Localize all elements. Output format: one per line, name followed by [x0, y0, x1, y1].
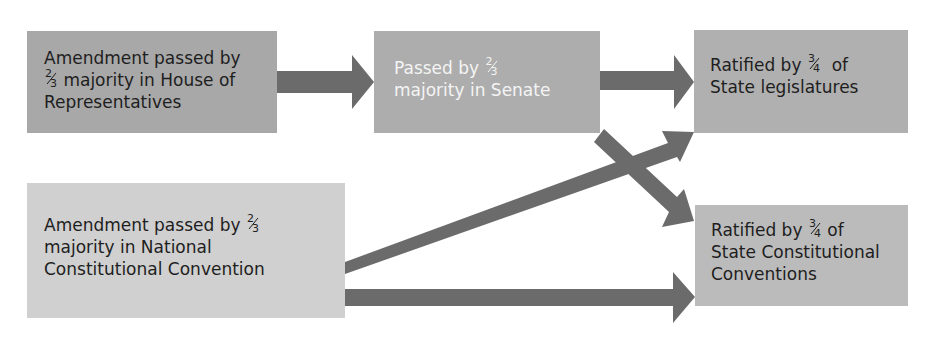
node-senate-line2: majority in Senate: [394, 79, 550, 101]
fraction-two-thirds: 2 3: [246, 216, 260, 234]
fraction-two-thirds: 2 3: [485, 59, 499, 77]
node-house-line2-text: majority in House of: [58, 70, 235, 90]
frac-den: 3: [491, 66, 498, 77]
node-senate: Passed by 2 3 majority in Senate: [374, 31, 600, 133]
node-national-convention-line2: majority in National: [44, 236, 265, 258]
node-national-convention-line1-text: Amendment passed by: [44, 215, 246, 235]
node-state-legislatures-line1-text: Ratified by: [710, 55, 807, 75]
arrow-national-convention-to-state-legislatures: [345, 131, 694, 274]
node-state-legislatures: Ratified by 3 4 of State legislatures: [694, 30, 908, 133]
node-state-conventions-line1-text: Ratified by: [711, 220, 808, 240]
node-state-conventions-line2: State Constitutional: [711, 241, 880, 263]
node-national-convention-line3: Constitutional Convention: [44, 258, 265, 280]
fraction-three-quarters: 3 4: [807, 56, 821, 74]
fraction-two-thirds: 2 3: [44, 71, 58, 89]
node-senate-line1: Passed by 2 3: [394, 57, 550, 79]
node-state-legislatures-line2: State legislatures: [710, 76, 858, 98]
frac-den: 4: [814, 228, 821, 239]
node-house-line1: Amendment passed by: [44, 47, 241, 69]
arrow-house-to-senate: [277, 55, 374, 109]
fraction-three-quarters: 3 4: [808, 221, 822, 239]
node-state-conventions-line3: Conventions: [711, 263, 880, 285]
node-state-legislatures-line1-post: of: [821, 55, 848, 75]
arrow-national-convention-to-state-conventions: [345, 272, 695, 323]
node-state-legislatures-line1: Ratified by 3 4 of: [710, 54, 858, 76]
node-state-conventions-line1: Ratified by 3 4 of: [711, 219, 880, 241]
frac-den: 4: [813, 63, 820, 74]
frac-den: 3: [50, 78, 57, 89]
node-state-conventions: Ratified by 3 4 of State Constitutional …: [695, 205, 908, 306]
node-national-convention-line1: Amendment passed by 2 3: [44, 214, 265, 236]
node-house: Amendment passed by 2 3 majority in Hous…: [27, 31, 277, 133]
node-state-conventions-line1-post: of: [822, 220, 844, 240]
node-senate-line1-text: Passed by: [394, 58, 485, 78]
node-national-convention: Amendment passed by 2 3 majority in Nati…: [27, 183, 345, 318]
arrow-senate-to-state-legislatures: [600, 55, 694, 109]
node-house-line2: 2 3 majority in House of: [44, 69, 241, 91]
frac-den: 3: [252, 223, 259, 234]
node-house-line3: Representatives: [44, 91, 241, 113]
